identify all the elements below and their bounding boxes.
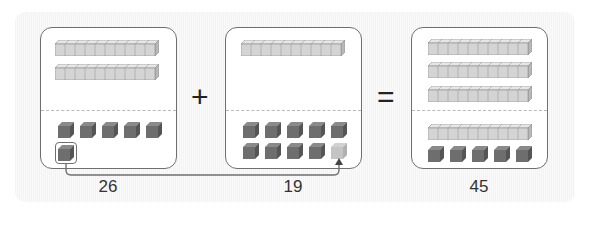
unit-cube-icon	[243, 122, 259, 138]
unit-cube-icon	[265, 122, 281, 138]
unit-cube-icon	[309, 122, 325, 138]
unit-cube-icon	[472, 146, 488, 162]
ten-rod-icon	[428, 62, 532, 78]
ten-rod-icon	[55, 40, 159, 56]
ten-rod-icon	[428, 124, 532, 140]
unit-cube-icon	[287, 143, 303, 159]
ten-rod-icon	[241, 40, 345, 56]
ghost-unit-cube-icon	[331, 143, 347, 159]
unit-cube-icon	[428, 146, 444, 162]
addend-label: 19	[263, 177, 323, 197]
unit-cube-icon	[80, 122, 96, 138]
unit-cube-icon	[102, 122, 118, 138]
move-arrow-icon	[60, 158, 350, 180]
unit-cube-icon	[265, 143, 281, 159]
tens-ones-divider	[226, 110, 361, 111]
tens-ones-divider	[41, 110, 176, 111]
unit-cube-icon	[58, 122, 74, 138]
tens-ones-divider	[412, 110, 547, 111]
unit-cube-icon	[243, 143, 259, 159]
addend-label: 26	[78, 177, 138, 197]
unit-cube-icon	[494, 146, 510, 162]
unit-cube-icon	[450, 146, 466, 162]
unit-cube-icon	[331, 122, 347, 138]
ten-rod-icon	[428, 86, 532, 102]
sum-label: 45	[449, 177, 509, 197]
unit-cube-icon	[287, 122, 303, 138]
equals-sign: =	[377, 80, 395, 114]
ten-rod-icon	[55, 64, 159, 80]
ten-rod-icon	[428, 39, 532, 55]
plus-sign: +	[191, 80, 209, 114]
unit-cube-icon	[309, 143, 325, 159]
unit-cube-icon	[124, 122, 140, 138]
unit-cube-icon	[146, 122, 162, 138]
unit-cube-icon	[516, 146, 532, 162]
